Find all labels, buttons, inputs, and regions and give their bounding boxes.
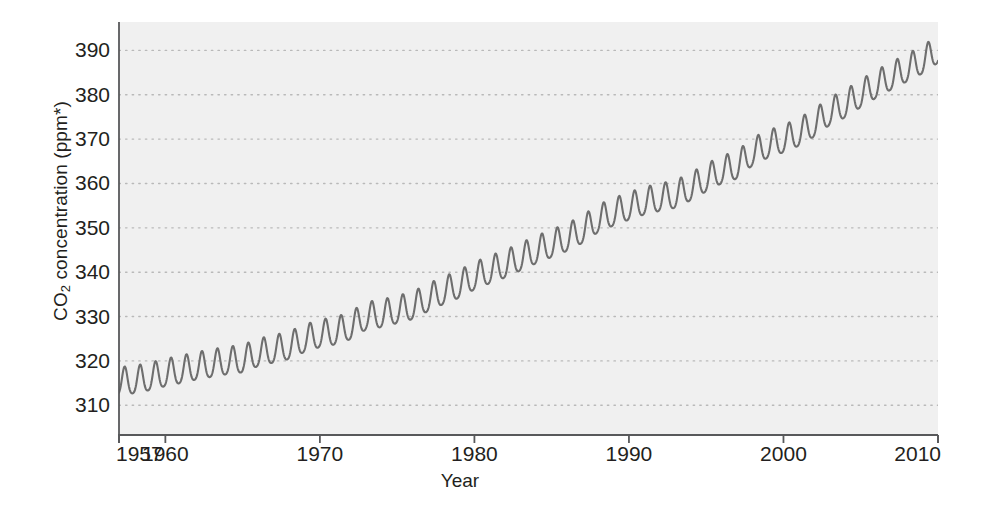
x-axis-tick-label: 2010 (894, 443, 941, 464)
x-axis-tick-label: 1960 (142, 443, 189, 464)
x-axis-tick-labels: 1957196019701980199020002010 (0, 0, 983, 515)
x-axis-tick-label: 1970 (297, 443, 344, 464)
x-axis-tick-label: 2000 (760, 443, 807, 464)
x-axis-tick-label: 1980 (451, 443, 498, 464)
x-axis-title: Year (400, 470, 520, 492)
co2-concentration-chart: CO2 concentration (ppm*) 310320330340350… (0, 0, 983, 515)
x-axis-tick-label: 1990 (606, 443, 653, 464)
